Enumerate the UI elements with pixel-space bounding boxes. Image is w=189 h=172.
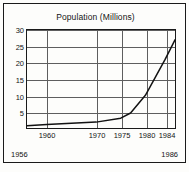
x-tick-label-1980: 1980 — [139, 131, 156, 140]
y-tick-label-10: 10 — [16, 92, 24, 101]
population-line-series — [27, 30, 175, 128]
y-tick-label-25: 25 — [16, 42, 24, 51]
series-polyline — [27, 40, 175, 126]
x-tick-label-1975: 1975 — [114, 131, 131, 140]
chart-frame: Population (Millions) 51015202530 196019… — [3, 3, 186, 163]
x-axis-end-label: 1986 — [161, 150, 178, 159]
y-tick-label-5: 5 — [20, 109, 24, 118]
y-tick-label-30: 30 — [16, 26, 24, 35]
x-tick-label-1970: 1970 — [89, 131, 106, 140]
x-axis-start-label: 1956 — [11, 150, 28, 159]
y-tick-label-15: 15 — [16, 76, 24, 85]
y-tick-label-20: 20 — [16, 59, 24, 68]
plot-area: 51015202530 19601970197519801984 — [26, 29, 176, 129]
x-tick-label-1984: 1984 — [159, 131, 176, 140]
x-tick-label-1960: 1960 — [39, 131, 56, 140]
chart-title: Population (Millions) — [4, 12, 187, 22]
chart-figure: Population (Millions) 51015202530 196019… — [0, 0, 189, 172]
